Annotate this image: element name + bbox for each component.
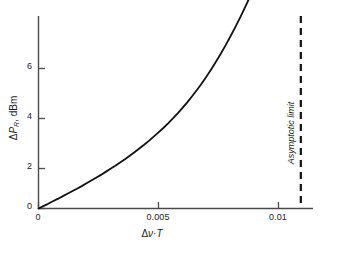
y-axis-title-delta: Δ bbox=[8, 134, 19, 141]
y-axis-title: ΔPR, dBm bbox=[8, 96, 20, 141]
x-axis-title: Δν·T bbox=[141, 228, 162, 239]
y-tick-label-2: 2 bbox=[27, 161, 32, 171]
axes-group bbox=[39, 16, 314, 209]
data-series-curve bbox=[39, 0, 250, 208]
x-tick-label-0: 0 bbox=[35, 212, 40, 222]
x-tick-label-0005: 0.005 bbox=[146, 212, 169, 222]
asymptotic-limit-label: Asymptotic limit bbox=[286, 102, 296, 165]
y-tick-label-6: 6 bbox=[27, 61, 32, 71]
x-axis-title-delta: Δ bbox=[141, 228, 148, 239]
y-axis-title-subscript: R bbox=[13, 122, 20, 127]
y-tick-label-0: 0 bbox=[27, 201, 32, 211]
x-axis-title-t: T bbox=[156, 228, 162, 239]
y-tick-marks bbox=[39, 69, 46, 209]
y-tick-label-4: 4 bbox=[27, 111, 32, 121]
x-tick-marks bbox=[39, 202, 279, 209]
x-tick-label-001: 0.01 bbox=[269, 212, 287, 222]
chart-figure: 6 4 2 0 0 0.005 0.01 Δν·T ΔPR, dBm Asymp… bbox=[0, 0, 338, 254]
y-axis-title-p: P bbox=[8, 127, 19, 134]
y-axis-title-units: , dBm bbox=[8, 96, 19, 122]
